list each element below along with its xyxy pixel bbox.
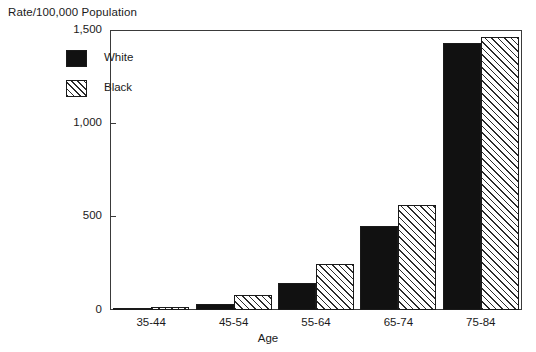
bar-75-84-black — [481, 37, 519, 310]
bar-35-44-white — [113, 308, 151, 311]
x-tick-label: 55-64 — [301, 316, 330, 328]
bar-45-54-black — [234, 295, 272, 310]
x-axis-title: Age — [0, 332, 536, 344]
bar-45-54-white — [196, 304, 234, 310]
bar-55-64-black — [316, 264, 354, 310]
bar-75-84-white — [443, 43, 481, 310]
hatched-swatch — [66, 80, 87, 97]
legend-label: White — [104, 51, 133, 63]
bar-65-74-black — [398, 205, 436, 310]
x-tick-label: 75-84 — [466, 316, 495, 328]
x-tick-label: 35-44 — [136, 316, 165, 328]
bar-35-44-black — [151, 307, 189, 310]
y-tick-mark — [110, 216, 116, 217]
x-tick-label: 45-54 — [219, 316, 248, 328]
bar-55-64-white — [278, 283, 316, 310]
y-tick-label-text: 1,000 — [32, 116, 102, 128]
y-tick-label-text: 0 — [32, 303, 102, 315]
bar-65-74-white — [360, 226, 398, 310]
y-tick-label: 1,500 — [104, 23, 170, 38]
y-tick-label-text: 1,500 — [32, 23, 102, 35]
y-tick-mark — [110, 123, 116, 124]
legend-label: Black — [104, 81, 132, 93]
y-axis-caption: Rate/100,000 Population — [8, 6, 137, 18]
solid-black-swatch — [66, 50, 87, 67]
x-tick-label: 65-74 — [384, 316, 413, 328]
bar-chart-figure: Rate/100,000 Population 05001,0001,500 3… — [0, 0, 536, 352]
y-tick-label-text: 500 — [32, 209, 102, 221]
